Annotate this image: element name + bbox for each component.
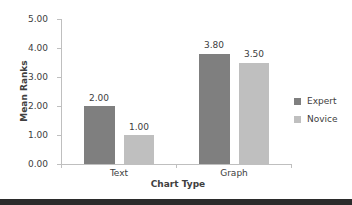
- y-axis: [61, 19, 62, 164]
- y-tick-label: 5.00: [8, 14, 48, 24]
- bar-expert-graph: [199, 54, 230, 164]
- bar-expert-text: [84, 106, 115, 164]
- legend-label: Novice: [307, 114, 338, 124]
- legend-item-expert: Expert: [294, 96, 337, 106]
- data-label: 3.80: [194, 40, 234, 50]
- y-tick-label: 0.00: [8, 159, 48, 169]
- x-tick-mark: [176, 164, 177, 168]
- legend-swatch-icon: [294, 116, 301, 123]
- x-tick-mark: [291, 164, 292, 168]
- y-axis-title: Mean Ranks: [19, 51, 29, 131]
- bottom-border: [0, 199, 352, 205]
- legend-item-novice: Novice: [294, 114, 338, 124]
- legend-swatch-icon: [294, 98, 301, 105]
- data-label: 2.00: [79, 93, 119, 103]
- bar-novice-graph: [239, 63, 269, 164]
- data-label: 1.00: [119, 122, 159, 132]
- bar-novice-text: [124, 135, 154, 164]
- x-tick-mark: [61, 164, 62, 168]
- x-axis-title: Chart Type: [143, 179, 213, 189]
- legend-label: Expert: [307, 96, 337, 106]
- y-tick-label: 1.00: [8, 130, 48, 140]
- data-label: 3.50: [234, 49, 274, 59]
- x-category-label: Text: [89, 168, 149, 178]
- x-category-label: Graph: [204, 168, 264, 178]
